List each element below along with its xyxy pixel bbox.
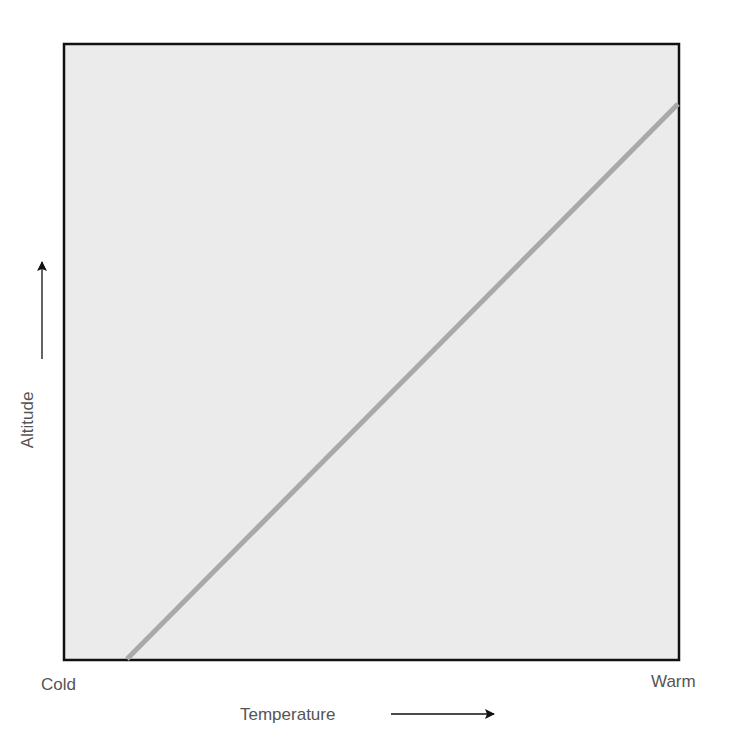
diagram: Cold Warm Temperature Altitude <box>0 0 729 749</box>
x-axis-min-label: Cold <box>41 675 76 695</box>
y-axis-title-wrap: Altitude <box>22 250 62 460</box>
plot-area <box>64 44 679 660</box>
y-axis-title: Altitude <box>18 392 38 449</box>
diagram-canvas <box>0 0 729 749</box>
x-axis-title: Temperature <box>240 705 335 725</box>
x-axis-max-label: Warm <box>651 672 696 692</box>
